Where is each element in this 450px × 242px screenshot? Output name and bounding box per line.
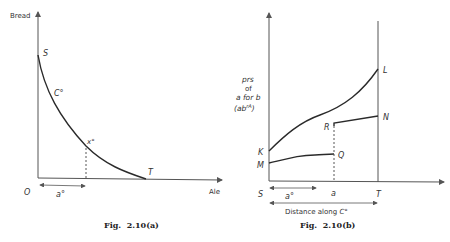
point-t-b-label: T: [376, 190, 382, 199]
line-rn: [334, 116, 378, 126]
a0-arrow: [40, 185, 85, 186]
origin-label: O: [24, 188, 30, 197]
point-s-label: S: [43, 49, 48, 58]
figure-a: Bread Ale O S C° x° T a° Fig. 2.10(a): [10, 12, 222, 230]
distance-label: Distance along C°: [285, 208, 348, 216]
diagram-canvas: Bread Ale O S C° x° T a° Fig. 2.10(a) pr…: [0, 0, 450, 242]
ale-label: Ale: [209, 188, 220, 196]
x-axis-a: [38, 178, 222, 180]
point-x0-label: x°: [86, 138, 95, 146]
caption-b: Fig. 2.10(b): [300, 220, 356, 230]
caption-a: Fig. 2.10(a): [104, 220, 159, 230]
point-r-label: R: [324, 123, 330, 132]
point-n-label: N: [383, 113, 389, 122]
point-t-label: T: [148, 168, 154, 177]
point-a-label: a: [331, 189, 336, 198]
figure-b: prs of a for b (abrA) K M Q R L N S a T …: [234, 13, 444, 230]
curve-kl: [269, 69, 378, 151]
a0-b-label: a°: [285, 192, 294, 201]
point-m-label: M: [257, 161, 264, 170]
curve-label: C°: [54, 89, 64, 98]
point-q-label: Q: [338, 151, 344, 160]
point-s-b-label: S: [258, 190, 263, 199]
curve-c0: [38, 55, 146, 179]
a0-label: a°: [56, 190, 65, 199]
point-l-label: L: [383, 66, 387, 75]
point-k-label: K: [258, 148, 264, 157]
x-axis-b: [269, 181, 444, 182]
y-label-of: of: [245, 85, 252, 93]
curve-mq: [269, 154, 334, 163]
bread-label: Bread: [10, 12, 31, 20]
y-label-ab: (abrA): [234, 103, 255, 113]
y-label-afor: a for b: [236, 93, 261, 102]
y-label-prs: prs: [241, 75, 254, 84]
